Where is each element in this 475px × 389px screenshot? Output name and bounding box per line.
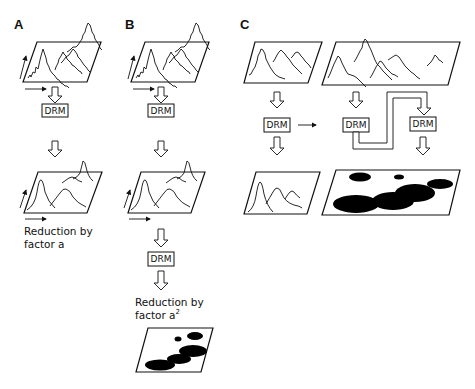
panel-b: B DRM DRM bbox=[124, 17, 213, 372]
panel-b-down-arrow-4 bbox=[154, 271, 168, 290]
panel-a-label: A bbox=[14, 17, 24, 32]
panel-a-raw-spectrum bbox=[20, 23, 102, 89]
svg-text:DRM: DRM bbox=[45, 106, 66, 116]
svg-text:DRM: DRM bbox=[346, 120, 367, 130]
panel-c-drm-box-2: DRM bbox=[343, 118, 369, 132]
panel-b-drm-box-1: DRM bbox=[148, 104, 174, 117]
panel-a: A DRM Reduction by factor a bbox=[14, 17, 102, 250]
panel-b-down-arrow-3 bbox=[154, 229, 168, 247]
panel-c-down-arrow-2 bbox=[270, 137, 284, 155]
panel-c-down-arrow-1 bbox=[270, 92, 284, 108]
panel-b-caption-line1: Reduction by bbox=[135, 296, 204, 308]
panel-c-raw-spectrum-wide bbox=[322, 39, 460, 87]
svg-text:DRM: DRM bbox=[151, 254, 172, 264]
svg-text:DRM: DRM bbox=[151, 106, 172, 116]
panel-c-label: C bbox=[240, 17, 250, 32]
panel-b-label: B bbox=[125, 17, 134, 32]
panel-b-down-arrow-2 bbox=[154, 141, 168, 157]
panel-c-reduced-spectrum bbox=[244, 172, 320, 214]
panel-b-raw-spectrum bbox=[128, 23, 210, 89]
panel-c-drm-box-3: DRM bbox=[410, 117, 436, 131]
panel-a-drm-box: DRM bbox=[42, 104, 68, 117]
panel-c-raw-spectrum-small bbox=[244, 42, 322, 83]
panel-c-down-arrow-3 bbox=[349, 92, 363, 108]
svg-text:DRM: DRM bbox=[413, 119, 434, 129]
panel-a-caption-line2: factor a bbox=[24, 238, 65, 250]
figure: A DRM Reduction by factor a bbox=[0, 0, 475, 389]
figure-canvas: A DRM Reduction by factor a bbox=[0, 0, 475, 389]
panel-c-blob-map bbox=[322, 170, 460, 215]
panel-c-drm-box-1: DRM bbox=[264, 118, 290, 132]
panel-a-caption-line1: Reduction by bbox=[24, 225, 93, 237]
panel-a-down-arrow-2 bbox=[48, 141, 62, 157]
panel-b-caption-line2: factor a2 bbox=[135, 308, 180, 321]
panel-b-drm-box-2: DRM bbox=[148, 252, 174, 266]
panel-a-reduced-spectrum bbox=[20, 161, 102, 219]
panel-c: C DRM DRM DRM bbox=[240, 17, 460, 215]
panel-b-down-arrow-1 bbox=[154, 87, 168, 103]
panel-a-down-arrow-1 bbox=[48, 87, 62, 103]
svg-text:DRM: DRM bbox=[267, 120, 288, 130]
panel-b-blob-map bbox=[136, 328, 213, 372]
panel-b-reduced-spectrum bbox=[124, 161, 205, 219]
panel-c-down-arrow-4 bbox=[416, 137, 430, 155]
